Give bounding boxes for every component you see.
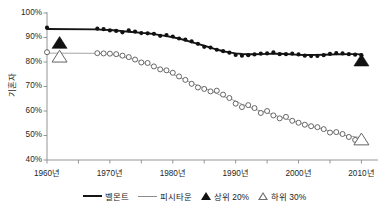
data-series: [45, 26, 364, 143]
legend-line-thick-icon: [83, 195, 102, 197]
chart-figure: 기혼자 100%90%80%70%60%50%40% 1960년1970년198…: [0, 0, 389, 213]
plot-area: [0, 0, 389, 213]
legend-label: 상위 20%: [214, 190, 249, 202]
legend-label: 벨몬트: [105, 190, 129, 202]
series-fishtown: [45, 50, 364, 143]
legend-open-triangle-icon: [258, 192, 268, 200]
axes: [44, 12, 379, 164]
legend-filled-triangle-icon: [201, 192, 211, 200]
chart-legend: 벨몬트피시타운상위 20%하위 30%: [0, 190, 389, 202]
legend-item[interactable]: 하위 30%: [258, 190, 306, 202]
legend-item[interactable]: 피시타운: [138, 190, 192, 202]
legend-line-thin-icon: [138, 196, 157, 197]
legend-item[interactable]: 벨몬트: [83, 190, 129, 202]
legend-item[interactable]: 상위 20%: [201, 190, 249, 202]
marker-top20: [52, 37, 67, 49]
legend-label: 하위 30%: [271, 190, 306, 202]
marker-bottom30: [52, 50, 67, 62]
legend-label: 피시타운: [160, 190, 192, 202]
